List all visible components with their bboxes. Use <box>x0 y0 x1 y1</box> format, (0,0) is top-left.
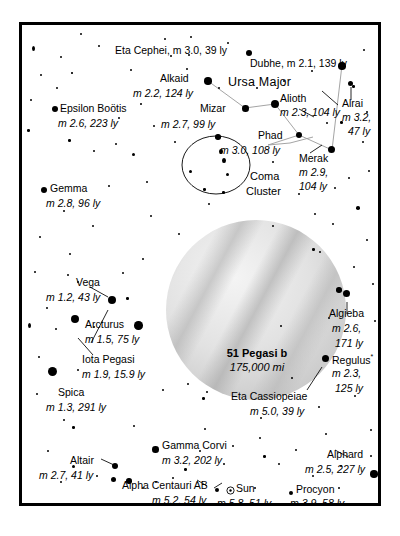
star-dot <box>153 125 155 127</box>
label-phad-mag: m 3.0, 108 ly <box>220 145 280 157</box>
star-dot <box>291 377 293 379</box>
star-dot <box>338 487 340 489</box>
star-dot <box>72 426 75 429</box>
label-spica-mag: m 1.3, 291 ly <box>46 402 106 414</box>
label-vega-name: Vega <box>76 277 100 289</box>
star-dot <box>272 225 274 227</box>
star-dot <box>326 122 328 124</box>
label-iota-pegasi-mag: m 1.9, 15.9 ly <box>82 369 145 381</box>
label-coma-line1: Coma <box>250 170 279 183</box>
planet-diameter: 175,000 mi <box>198 361 316 375</box>
label-algieba-mag: m 2.6, <box>332 323 361 335</box>
label-alrai-mag: m 3.2, <box>342 112 371 124</box>
star-dot <box>63 419 65 421</box>
star-dot <box>93 150 95 152</box>
star-dot <box>278 463 280 465</box>
label-ursa-major: Ursa Major <box>228 75 291 89</box>
coma-cluster-star <box>189 170 192 173</box>
label-gemma-name: Gemma <box>50 183 87 195</box>
star-vega <box>108 296 116 304</box>
constellation-lines <box>22 25 378 503</box>
star-dot <box>280 325 282 327</box>
label-alkaid-mag: m 2.2, 124 ly <box>133 88 193 100</box>
label-regulus-mag2: 125 ly <box>335 383 363 395</box>
star-dot <box>108 185 110 187</box>
label-alioth-name: Alioth <box>280 93 306 105</box>
star-altair-b <box>111 477 116 482</box>
label-mizar-mag: m 2.7, 99 ly <box>161 119 215 131</box>
label-procyon-mag: m 3.9, 58 ly <box>290 498 344 503</box>
label-merak-mag2: 104 ly <box>299 181 327 193</box>
star-dot <box>227 42 229 44</box>
label-regulus-name: Regulus* <box>332 353 373 366</box>
star-dot <box>140 103 142 105</box>
star-dot <box>27 129 30 132</box>
star-alrai <box>348 81 353 86</box>
star-dot <box>174 141 176 143</box>
label-gamma-corvi-mag: m 3.2, 202 ly <box>162 455 222 467</box>
coma-cluster-star <box>215 134 221 140</box>
star-dot <box>36 393 38 395</box>
label-procyon-name: Procyon <box>296 484 335 496</box>
star-alphard <box>370 470 378 478</box>
label-sun-mag: m 5.8, 51 ly <box>217 498 271 503</box>
star-dot <box>55 328 57 330</box>
label-alrai-name: Alrai <box>342 98 363 110</box>
star-dot <box>184 468 187 471</box>
planet-name: 51 Pegasi b <box>198 347 316 361</box>
star-dot <box>223 463 225 465</box>
star-algieba <box>343 290 350 297</box>
star-dot <box>71 72 73 74</box>
star-dot <box>368 170 370 172</box>
star-dot <box>80 33 82 35</box>
star-dot <box>325 433 327 435</box>
label-alpha-centauri-mag: m 5.2, 54 ly <box>152 495 206 503</box>
label-epsilon-bootis-mag: m 2.6, 223 ly <box>58 118 118 130</box>
star-alioth <box>271 100 279 108</box>
planet-caption: 51 Pegasi b 175,000 mi <box>198 347 316 375</box>
coma-cluster-star <box>222 158 226 163</box>
label-coma-line2: Cluster <box>246 185 281 198</box>
label-phad-name: Phad <box>258 130 283 142</box>
star-dot <box>132 153 135 156</box>
star-dot <box>372 283 374 285</box>
star-dot <box>259 437 261 439</box>
label-sun-name: Sun <box>236 483 255 495</box>
star-dot <box>218 87 220 89</box>
star-dot <box>32 46 35 51</box>
label-vega-mag: m 1.2, 43 ly <box>46 292 100 304</box>
star-dot <box>370 455 372 457</box>
label-spica-name: Spica <box>58 387 84 399</box>
star-alkaid <box>204 77 212 85</box>
star-alpha-centauri-ab <box>215 488 219 492</box>
label-alioth-mag: m 2.3, 104 ly <box>280 107 340 119</box>
star-gemma <box>41 187 47 193</box>
label-alphard-mag: m 2.5, 227 ly <box>305 464 365 476</box>
star-gamma-corvi <box>152 446 159 453</box>
star-dot <box>295 449 297 451</box>
sky-field: Eta Cephei, m 3.0, 39 ly Dubhe, m 2.1, 1… <box>22 25 378 503</box>
coma-cluster-star <box>203 188 206 191</box>
label-eta-cassiopeiae-mag: m 5.0, 39 ly <box>250 406 304 418</box>
label-arcturus-name: Arcturus <box>85 319 124 331</box>
star-dot <box>178 233 180 235</box>
star-dot <box>187 383 189 385</box>
star-dot <box>146 181 148 183</box>
star-dot <box>38 356 40 358</box>
label-mizar-name: Mizar <box>200 103 226 115</box>
star-dot <box>202 397 205 400</box>
star-dot <box>366 239 368 241</box>
star-dot <box>39 236 41 238</box>
label-gemma-mag: m 2.8, 96 ly <box>46 198 100 210</box>
star-dot <box>356 206 360 210</box>
label-merak-name: Merak <box>299 153 328 165</box>
star-dot <box>312 248 315 251</box>
label-algieba-mag2: 171 ly <box>335 338 363 350</box>
label-arcturus-mag: m 1.5, 75 ly <box>85 334 139 346</box>
star-merak <box>328 146 335 153</box>
label-eta-cephei: Eta Cephei, m 3.0, 39 ly <box>115 45 227 57</box>
label-algieba-name: Algieba <box>329 308 364 320</box>
star-dot <box>77 369 79 371</box>
star-dot <box>164 38 166 40</box>
label-alphard-name: Alphard <box>327 449 363 461</box>
